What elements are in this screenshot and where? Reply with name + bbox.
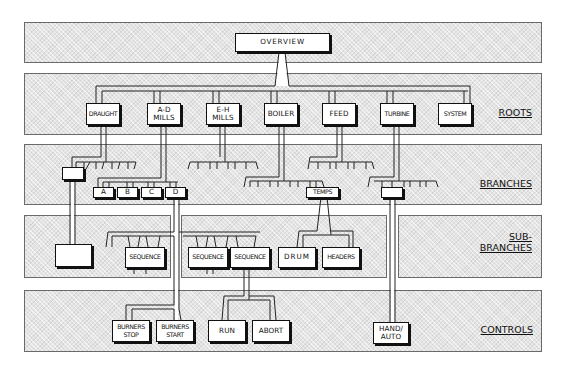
root-draught-button[interactable]: DRAUGHT (86, 103, 120, 125)
root-boiler-button[interactable]: BOILER (264, 103, 298, 125)
branch-mill-b-button[interactable]: B (117, 187, 138, 198)
sub-branch-drum-button[interactable]: DRUM (278, 247, 316, 268)
root-a-d-mills-button[interactable]: A-D MILLS (147, 103, 181, 125)
root-e-h-mills-button[interactable]: E-H MILLS (206, 103, 240, 125)
sub-branch-draught-button[interactable] (55, 244, 92, 267)
control-hand-auto-button[interactable]: HAND/ AUTO (373, 322, 409, 344)
branch-temps-button[interactable]: TEMPS (306, 187, 339, 198)
branch-mill-d-button[interactable]: D (165, 187, 186, 198)
sub-branch-sequence-2-button[interactable]: SEQUENCE (188, 247, 228, 268)
level-label-controls: CONTROLS (470, 324, 533, 335)
branch-mill-a-button[interactable]: A (93, 187, 114, 198)
level-label-branches: BRANCHES (470, 178, 532, 189)
root-turbine-button[interactable]: TURBINE (380, 103, 414, 125)
sub-branch-sequence-1-button[interactable]: SEQUENCE (125, 247, 165, 268)
branch-turbine-button[interactable] (381, 187, 403, 198)
overview-button[interactable]: OVERVIEW (235, 33, 330, 52)
sub-branch-headers-button[interactable]: HEADERS (322, 247, 360, 268)
branch-draught-button[interactable] (62, 167, 84, 180)
root-feed-button[interactable]: FEED (322, 103, 356, 125)
level-label-sub-branches: SUB- BRANCHES (470, 231, 532, 253)
root-system-button[interactable]: SYSTEM (438, 103, 472, 125)
control-burners-start-button[interactable]: BURNERS START (156, 320, 194, 342)
sub-branch-sequence-3-button[interactable]: SEQUENCE (230, 247, 270, 268)
control-run-button[interactable]: RUN (208, 320, 246, 342)
branch-mill-c-button[interactable]: C (141, 187, 162, 198)
level-label-roots: ROOTS (480, 107, 532, 118)
control-abort-button[interactable]: ABORT (252, 320, 290, 342)
control-burners-stop-button[interactable]: BURNERS STOP (112, 320, 150, 342)
